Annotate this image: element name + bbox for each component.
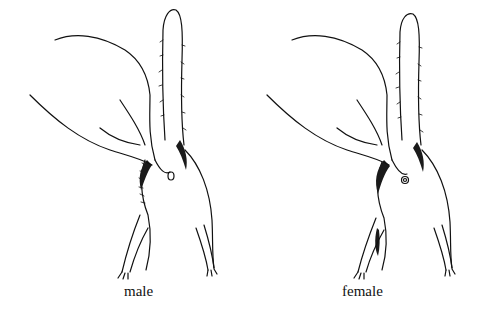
caption-female: female <box>342 283 383 300</box>
body <box>375 142 452 270</box>
tail <box>159 10 186 145</box>
hand <box>30 36 170 173</box>
legs <box>118 215 217 279</box>
female-panel: female <box>242 0 484 310</box>
genital-detail <box>168 172 174 180</box>
male-illustration <box>0 0 242 310</box>
caption-male: male <box>124 283 153 300</box>
legs <box>354 218 455 279</box>
male-panel: male <box>0 0 242 310</box>
female-illustration <box>242 0 484 310</box>
hand <box>267 36 407 175</box>
genital-detail <box>402 177 409 184</box>
tail <box>396 14 423 145</box>
